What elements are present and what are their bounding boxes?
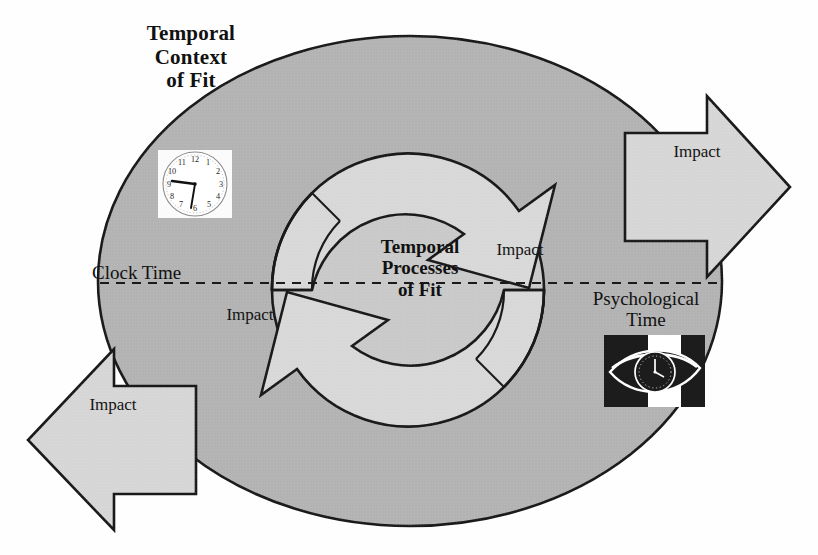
eye-with-clock-icon [604,335,705,407]
psychological-time-label: Psychological Time [566,288,726,331]
diagram-canvas: 12 1 2 3 4 5 6 7 8 9 10 11 [0,0,818,555]
impact-label-right: Impact [642,142,752,161]
outer-context-label: Temporal Context of Fit [86,22,296,93]
clock-time-label: Clock Time [92,262,232,283]
impact-label-inner-right: Impact [475,240,565,259]
impact-label-left: Impact [58,395,168,414]
impact-label-inner-left: Impact [205,305,295,324]
